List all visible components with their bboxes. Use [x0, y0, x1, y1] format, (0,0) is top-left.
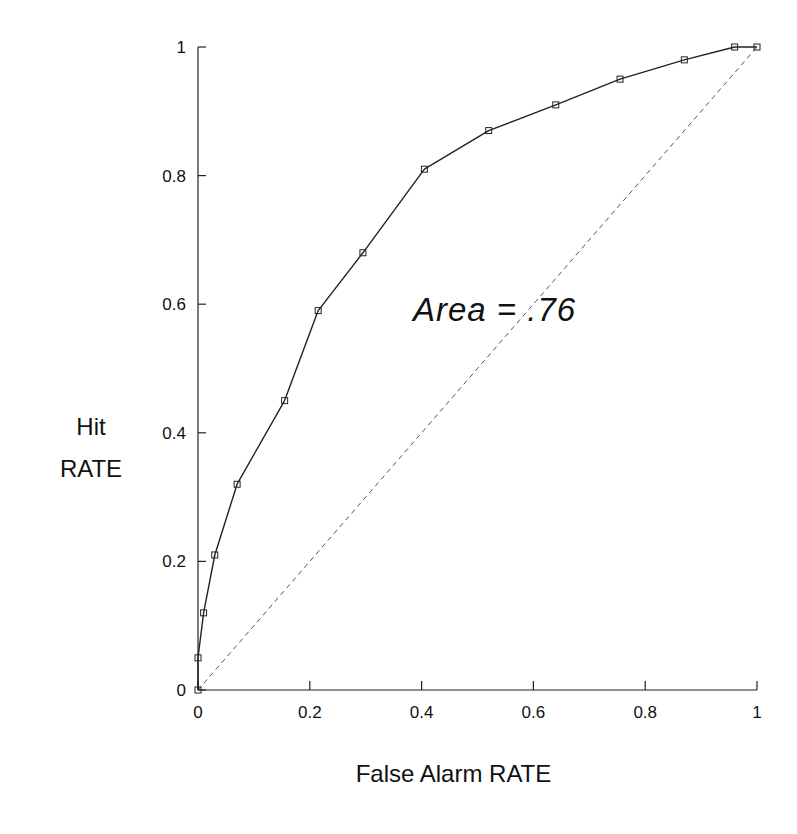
x-tick-label: 1: [752, 703, 761, 722]
x-tick-label: 0.2: [298, 703, 322, 722]
chance-diagonal: [198, 47, 757, 690]
y-tick-label: 0.8: [162, 167, 186, 186]
y-tick-label: 0.2: [162, 552, 186, 571]
x-tick-label: 0.4: [410, 703, 434, 722]
x-tick-label: 0: [193, 703, 202, 722]
y-tick-label: 0: [177, 681, 186, 700]
y-axis-label-line1: Hit: [36, 413, 146, 441]
y-axis-label-line2: RATE: [36, 455, 146, 483]
x-tick-label: 0.8: [633, 703, 657, 722]
axes: 00.20.40.60.8100.20.40.60.81: [162, 38, 761, 722]
x-axis-label: False Alarm RATE: [0, 760, 797, 788]
area-annotation: Area = .76: [413, 291, 576, 329]
y-tick-label: 1: [177, 38, 186, 57]
y-tick-label: 0.6: [162, 295, 186, 314]
y-tick-label: 0.4: [162, 424, 186, 443]
x-tick-label: 0.6: [522, 703, 546, 722]
